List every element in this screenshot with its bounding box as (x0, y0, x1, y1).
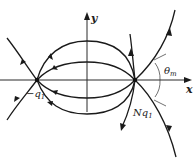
field-line-diagram: x y (0, 0, 196, 163)
asymptote-tick-lower (154, 100, 166, 106)
field-line-lower-outer (37, 80, 135, 114)
charge-positive-dot (133, 78, 137, 82)
x-axis (0, 77, 192, 83)
x-axis-label: x (185, 83, 193, 96)
field-line-lower-inner (37, 80, 135, 98)
field-line-upper-inner (37, 62, 135, 80)
charge-negative-dot (35, 78, 39, 82)
field-line-left-lower (7, 80, 37, 120)
y-axis-label: y (90, 12, 99, 25)
field-line-left-upper (7, 38, 37, 80)
charge-negative-label: −q1 (26, 88, 45, 101)
angle-label: θm (164, 65, 177, 78)
charge-positive-label: Nq1 (132, 107, 153, 120)
field-line-upper-outer (37, 41, 135, 80)
field-line-right-lower (135, 80, 176, 157)
field-line-right-up (128, 34, 135, 80)
